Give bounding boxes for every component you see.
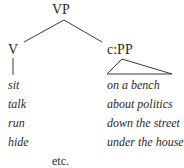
node-vp: VP (52, 3, 70, 17)
leaf-pp-1: about politics (107, 98, 173, 110)
leaf-pp-2: down the street (107, 117, 180, 129)
leaf-v-1: talk (8, 98, 26, 110)
leaf-pp-3: under the house (107, 136, 184, 148)
node-cpp: c:PP (107, 43, 133, 57)
etc-label: etc. (52, 155, 69, 167)
node-v: V (8, 43, 18, 57)
leaf-pp-0: on a bench (107, 79, 160, 91)
leaf-v-2: run (8, 117, 25, 129)
leaf-v-0: sit (8, 79, 19, 91)
leaf-v-3: hide (8, 136, 29, 148)
